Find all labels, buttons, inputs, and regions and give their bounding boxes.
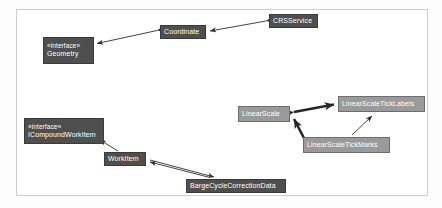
- node-workitem-name: WorkItem: [108, 155, 142, 164]
- node-linearscale-name: LinearScale: [242, 110, 286, 119]
- node-geometry[interactable]: «interface» Geometry: [43, 37, 94, 64]
- node-workitem[interactable]: WorkItem: [104, 152, 146, 166]
- node-bargecyclecorrectiondata-name: BargeCycleCorrectionData: [190, 182, 282, 191]
- node-linearscaleticklabels-name: LinearScaleTickLabels: [342, 100, 421, 109]
- node-linearscaletickmarks[interactable]: LinearScaleTickMarks: [303, 137, 390, 153]
- node-crsservice[interactable]: CRSService: [269, 14, 318, 28]
- diagram-canvas: «interface» Geometry Coordinate CRSServi…: [0, 0, 442, 208]
- node-crsservice-name: CRSService: [273, 17, 314, 26]
- node-icompoundworkitem-stereotype: «interface»: [28, 123, 100, 131]
- node-linearscale[interactable]: LinearScale: [238, 106, 290, 122]
- node-geometry-name: Geometry: [47, 50, 90, 59]
- node-coordinate-name: Coordinate: [164, 28, 202, 37]
- node-icompoundworkitem-name: ICompoundWorkItem: [28, 131, 100, 140]
- node-coordinate[interactable]: Coordinate: [160, 25, 206, 39]
- node-geometry-stereotype: «interface»: [47, 42, 90, 50]
- node-linearscaleticklabels[interactable]: LinearScaleTickLabels: [338, 96, 425, 112]
- node-bargecyclecorrectiondata[interactable]: BargeCycleCorrectionData: [186, 179, 286, 193]
- node-linearscaletickmarks-name: LinearScaleTickMarks: [307, 141, 386, 150]
- node-icompoundworkitem[interactable]: «interface» ICompoundWorkItem: [24, 118, 104, 144]
